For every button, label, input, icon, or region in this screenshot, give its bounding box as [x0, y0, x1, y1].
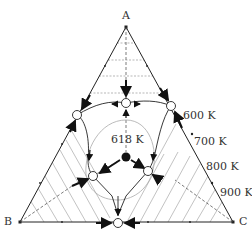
- saddle-top-point: [122, 99, 131, 108]
- isotherm-618k-curve: [86, 120, 155, 200]
- dashed-guides: [20, 27, 233, 222]
- isotherm-label-800: 800 K: [206, 161, 239, 172]
- isotherm-label-600: 600 K: [183, 110, 216, 121]
- isotherm-label-900: 900 K: [220, 187, 252, 198]
- saddle-left-point: [73, 111, 82, 120]
- triangle-outline: [20, 27, 233, 222]
- vertex-label-b: B: [4, 216, 12, 227]
- saddle-right-point: [167, 102, 176, 111]
- saddle-bottom-point: [114, 219, 123, 228]
- isotherm-label-700: 700 K: [194, 136, 227, 147]
- node-mid-right-point: [144, 167, 153, 176]
- node-mid-left-point: [89, 172, 98, 181]
- hatch-left: [30, 128, 110, 222]
- azeotrope-label: 618 K: [111, 134, 144, 145]
- azeotrope-point: [122, 153, 131, 162]
- edge-ticks: [19, 26, 235, 224]
- vertex-label-a: A: [122, 10, 130, 21]
- vertex-label-c: C: [239, 216, 247, 227]
